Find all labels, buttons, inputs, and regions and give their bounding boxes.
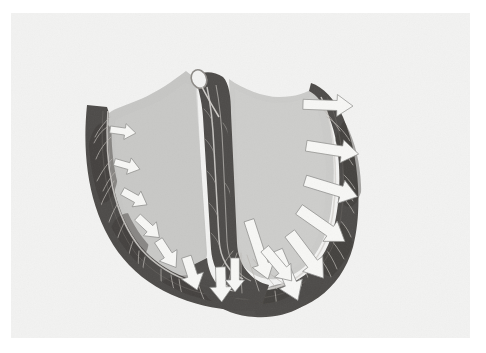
paper-grain-overlay: [11, 13, 470, 338]
screenshot-root: Cardiac ventricular cross-section showin…: [0, 0, 486, 353]
figure-panel: [11, 13, 470, 338]
cardiac-cross-section-illustration: [11, 13, 470, 338]
